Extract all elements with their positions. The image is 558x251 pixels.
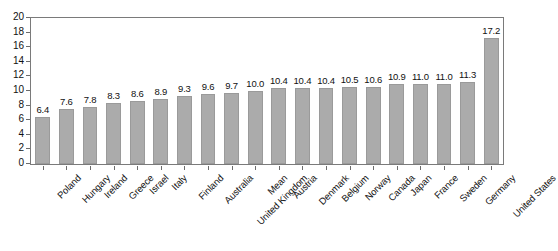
bar-group[interactable]: 8.9	[153, 18, 168, 164]
x-axis-label: France	[433, 173, 461, 201]
bar-group[interactable]: 9.6	[201, 18, 216, 164]
y-tick-label: 12	[13, 70, 24, 80]
bar-value-label: 8.6	[131, 89, 144, 99]
bar-group[interactable]: 10.5	[342, 18, 357, 164]
bar[interactable]	[413, 84, 428, 164]
bar-group[interactable]: 10.0	[248, 18, 263, 164]
x-tick-mark	[302, 166, 303, 170]
bar-group[interactable]: 10.6	[366, 18, 381, 164]
x-axis-label: Australia	[223, 173, 256, 206]
bar[interactable]	[342, 87, 357, 164]
bar-value-label: 11.3	[459, 70, 476, 80]
x-tick-mark	[420, 166, 421, 170]
bar[interactable]	[106, 103, 121, 164]
bar-group[interactable]: 7.6	[59, 18, 74, 164]
bar-group[interactable]: 10.9	[389, 18, 404, 164]
y-tick-label: 0	[19, 158, 24, 168]
bar-group[interactable]: 7.8	[83, 18, 98, 164]
bar[interactable]	[460, 82, 475, 164]
bar-value-label: 11.0	[435, 72, 452, 82]
x-tick-mark	[208, 166, 209, 170]
bar[interactable]	[484, 38, 499, 164]
bar-value-label: 8.9	[154, 87, 167, 97]
bar-group[interactable]: 11.0	[413, 18, 428, 164]
y-tick-label: 2	[19, 143, 24, 153]
y-tick-label: 8	[19, 100, 24, 110]
bar[interactable]	[366, 87, 381, 164]
bar-value-label: 10.5	[341, 75, 359, 85]
bar[interactable]	[83, 107, 98, 164]
bar[interactable]	[295, 88, 310, 164]
x-tick-mark	[184, 166, 185, 170]
x-axis-label: United States	[512, 173, 558, 219]
x-tick-mark	[373, 166, 374, 170]
bar-value-label: 9.3	[178, 84, 191, 94]
x-tick-mark	[161, 166, 162, 170]
y-tick-label: 14	[13, 56, 24, 66]
bar-group[interactable]: 6.4	[35, 18, 50, 164]
x-axis-label: Italy	[170, 173, 189, 192]
x-tick-mark	[279, 166, 280, 170]
bar[interactable]	[153, 99, 168, 164]
x-tick-mark	[114, 166, 115, 170]
x-axis-label-text: United States	[512, 173, 558, 219]
x-tick-mark	[232, 166, 233, 170]
bar-value-label: 10.4	[317, 76, 335, 86]
bar-group[interactable]: 10.4	[295, 18, 310, 164]
bar[interactable]	[35, 117, 50, 164]
x-tick-mark	[326, 166, 327, 170]
bar-value-label: 6.4	[36, 105, 49, 115]
bar-value-label: 10.4	[294, 76, 312, 86]
x-tick-mark	[444, 166, 445, 170]
bar-group[interactable]: 11.0	[437, 18, 452, 164]
x-tick-mark	[468, 166, 469, 170]
x-tick-mark	[397, 166, 398, 170]
x-axis-label-text: France	[433, 173, 461, 201]
x-axis-label-text: Italy	[170, 173, 189, 192]
bar[interactable]	[201, 94, 216, 164]
bar-group[interactable]: 8.6	[130, 18, 145, 164]
x-axis-label-text: Germany	[483, 173, 517, 207]
bar-group[interactable]: 8.3	[106, 18, 121, 164]
bar[interactable]	[248, 91, 263, 164]
bar-value-label: 10.0	[246, 79, 264, 89]
bar[interactable]	[319, 88, 334, 164]
bar[interactable]	[389, 84, 404, 164]
bar-value-label: 9.6	[202, 82, 215, 92]
y-tick-label: 4	[19, 129, 24, 139]
bar-group[interactable]: 17.2	[484, 18, 499, 164]
y-tick-label: 10	[13, 85, 24, 95]
bar[interactable]	[59, 109, 74, 164]
bar-group[interactable]: 9.3	[177, 18, 192, 164]
bar-value-label: 7.6	[60, 97, 73, 107]
y-tick-label: 16	[13, 41, 24, 51]
bar-value-label: 17.2	[482, 26, 500, 36]
bar-value-label: 8.3	[107, 91, 120, 101]
bar-value-label: 10.4	[270, 76, 288, 86]
bar[interactable]	[130, 101, 145, 164]
bar[interactable]	[271, 88, 286, 164]
bar[interactable]	[177, 96, 192, 164]
y-tick-label: 6	[19, 114, 24, 124]
bar-group[interactable]: 10.4	[271, 18, 286, 164]
bar-value-label: 9.7	[225, 81, 238, 91]
bar[interactable]	[224, 93, 239, 164]
bar-value-label: 10.9	[388, 72, 406, 82]
x-axis-label-text: Australia	[223, 173, 256, 206]
x-tick-mark	[66, 166, 67, 170]
bar-group[interactable]: 9.7	[224, 18, 239, 164]
bar-group[interactable]: 11.3	[460, 18, 475, 164]
y-tick-label: 18	[13, 27, 24, 37]
plot-area: 6.47.67.88.38.68.99.39.69.710.010.410.41…	[31, 18, 503, 164]
x-tick-mark	[255, 166, 256, 170]
x-tick-mark	[43, 166, 44, 170]
bar-group[interactable]: 10.4	[319, 18, 334, 164]
y-axis: 02468101214161820	[0, 12, 30, 165]
bar-value-label: 7.8	[84, 95, 97, 105]
bar-value-label: 11.0	[412, 72, 429, 82]
bar[interactable]	[437, 84, 452, 164]
x-tick-mark	[350, 166, 351, 170]
x-tick-mark	[137, 166, 138, 170]
x-tick-mark	[90, 166, 91, 170]
